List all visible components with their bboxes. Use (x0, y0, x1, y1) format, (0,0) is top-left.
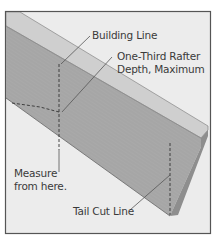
label-measure-1: Measure (14, 167, 57, 179)
label-measure-2: from here. (14, 180, 67, 192)
label-one-third-2: Depth, Maximum (117, 63, 205, 75)
diagram-frame: Building Line One-Third Rafter Depth, Ma… (0, 0, 216, 239)
rafter-diagram: Building Line One-Third Rafter Depth, Ma… (0, 0, 216, 239)
label-building-line: Building Line (92, 29, 157, 41)
label-tail-cut-line: Tail Cut Line (72, 205, 134, 217)
label-one-third-1: One-Third Rafter (117, 50, 201, 62)
